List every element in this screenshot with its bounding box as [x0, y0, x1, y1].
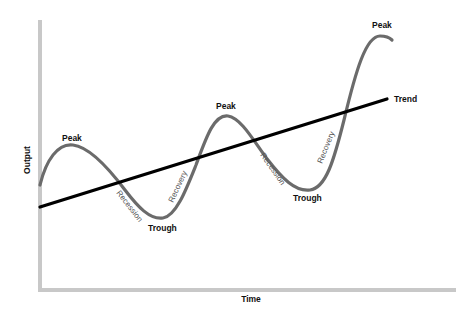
peak-label-2: Peak: [216, 101, 236, 111]
x-axis-label: Time: [241, 294, 261, 304]
trend-label: Trend: [394, 94, 417, 104]
y-axis-label: Output: [22, 146, 32, 174]
recession-label-2: Recession: [258, 151, 287, 187]
trough-label-1: Trough: [148, 223, 177, 233]
peak-label-3: Peak: [372, 20, 392, 30]
peak-label-1: Peak: [62, 133, 82, 143]
trough-label-2: Trough: [293, 193, 322, 203]
business-cycle-diagram: Output Time Trend Peak Peak Peak Trough …: [0, 0, 469, 313]
